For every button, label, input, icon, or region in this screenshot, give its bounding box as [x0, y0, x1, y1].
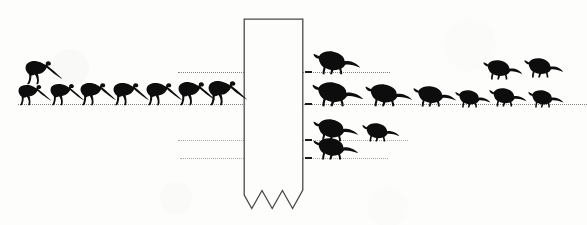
dinosaur-silhouette-icon: [528, 90, 564, 108]
baseline-tick-tick-4: [305, 157, 312, 159]
central-column-banner: [243, 18, 304, 210]
dinosaur-silhouette-icon: [313, 51, 361, 75]
dinosaur-silhouette-icon: [208, 80, 248, 106]
dinosaur-silhouette-icon: [25, 60, 63, 85]
dinosaur-silhouette-icon: [365, 84, 413, 107]
dinosaur-silhouette-icon: [313, 138, 359, 160]
dinosaur-silhouette-icon: [312, 82, 364, 107]
dinosaur-silhouette-icon: [113, 82, 150, 106]
dinosaur-silhouette-icon: [80, 82, 117, 106]
banner-outline-path: [244, 19, 303, 208]
dinosaur-silhouette-icon: [18, 84, 52, 106]
dinosaur-silhouette-icon: [362, 123, 400, 142]
baseline-tick-tick-2: [305, 103, 312, 105]
dinosaur-silhouette-icon: [524, 58, 564, 78]
dinosaur-silhouette-icon: [483, 60, 523, 80]
baseline-tick-tick-3: [305, 139, 312, 141]
baseline-tick-tick-1: [305, 71, 312, 73]
dinosaur-silhouette-icon: [413, 86, 457, 107]
figure-canvas: Dinosaur silhouette size-distribution fi…: [0, 0, 587, 225]
figure-title: Dinosaur silhouette size-distribution fi…: [0, 0, 1, 1]
dinosaur-silhouette-icon: [489, 88, 527, 107]
dinosaur-silhouette-icon: [455, 90, 491, 108]
